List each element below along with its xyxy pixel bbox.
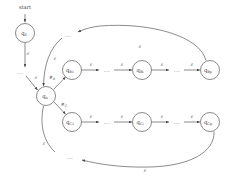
- edge-label-qn-to-qB1: #B: [49, 75, 56, 81]
- edge-label-top-return: ε: [139, 44, 142, 49]
- edge-label-dots-to-qBi: ε: [121, 62, 124, 67]
- edge-label-dots-to-qCp: ε: [191, 114, 194, 119]
- automaton-figure: q0 qn qB1 qBi qBp qC1 qCi qCp start ε ε …: [0, 0, 232, 182]
- state-diagram-svg: q0 qn qB1 qBi qBp qC1 qCi qCp start ε ε …: [0, 0, 232, 182]
- ellipsis-b-mid-right: ...: [174, 67, 180, 73]
- edge-label-q0-to-qn: ε: [27, 51, 30, 56]
- ellipsis-top-loop: ...: [65, 32, 71, 38]
- ellipsis-c-mid-left: ...: [104, 119, 110, 125]
- start-label: start: [19, 4, 31, 10]
- nodes-group: [16, 24, 220, 132]
- edge-label-qB1-to-dots: ε: [90, 62, 93, 67]
- edge-label-dots-to-qn: ε: [35, 75, 38, 80]
- edge-label-qCi-to-dots: ε: [161, 114, 164, 119]
- edge-label-bottom-entry: ε: [43, 141, 46, 146]
- edge-qBp-return-top: [78, 25, 206, 60]
- edge-label-dots-to-qBp: ε: [191, 62, 194, 67]
- edge-qCp-return-bottom: [82, 132, 214, 168]
- edge-label-qBi-to-dots: ε: [161, 62, 164, 67]
- edge-label-qC1-to-dots: ε: [90, 114, 93, 119]
- edge-label-top-entry: ε: [54, 56, 57, 61]
- ellipsis-b-mid-left: ...: [104, 67, 110, 73]
- edge-label-dots-to-qCi: ε: [121, 114, 124, 119]
- ellipsis-left-upper: ...: [17, 69, 23, 75]
- edge-qn-to-qB1: [54, 77, 66, 90]
- edge-label-qn-to-qC1: #C: [61, 102, 68, 108]
- ellipsis-bottom-loop: ...: [67, 154, 73, 160]
- edge-label-bottom-return: ε: [144, 168, 147, 173]
- ellipsis-c-mid-right: ...: [174, 119, 180, 125]
